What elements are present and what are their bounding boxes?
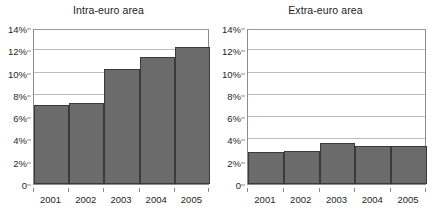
x-axis-tick-mark (247, 188, 248, 192)
plot-area-extra-euro-area (247, 29, 426, 185)
y-axis-tick-label: 4% (13, 135, 27, 146)
x-axis-tick-mark (33, 188, 34, 192)
y-axis-tick-mark (241, 185, 245, 186)
bar-series-extra-euro-area (248, 30, 425, 184)
y-axis-tick-label: 4% (227, 135, 241, 146)
y-axis-tick-label: 12% (8, 46, 27, 57)
y-axis-tick-label: 6% (13, 113, 27, 124)
y-axis-tick-mark (27, 95, 31, 96)
x-axis-tick-mark (68, 188, 69, 192)
chart-panel-intra-euro-area: Intra-euro area 02%4%6%8%10%12%14% 20012… (0, 0, 217, 215)
y-axis-intra-euro-area: 02%4%6%8%10%12%14% (0, 29, 31, 185)
y-axis-tick-label: 2% (13, 157, 27, 168)
y-axis-extra-euro-area: 02%4%6%8%10%12%14% (217, 29, 245, 185)
chart-panel-extra-euro-area: Extra-euro area 02%4%6%8%10%12%14% 20012… (217, 0, 434, 215)
y-axis-tick-mark (241, 118, 245, 119)
bar-2005 (391, 146, 427, 184)
y-axis-tick-label: 2% (227, 157, 241, 168)
chart-title-extra-euro-area: Extra-euro area (217, 4, 434, 16)
bar-2002 (284, 151, 320, 184)
y-axis-tick-label: 10% (8, 68, 27, 79)
y-axis-tick-mark (27, 140, 31, 141)
x-axis-tick-label: 2001 (254, 194, 275, 205)
bar-2003 (104, 69, 139, 184)
y-axis-tick-mark (27, 73, 31, 74)
x-axis-tick-label: 2002 (75, 194, 96, 205)
x-axis-tick-mark (283, 188, 284, 192)
bar-series-intra-euro-area (34, 30, 208, 184)
plot-area-intra-euro-area (33, 29, 209, 185)
bar-2002 (69, 103, 104, 184)
y-axis-tick-mark (27, 118, 31, 119)
bar-2004 (355, 146, 391, 184)
bar-2005 (175, 47, 210, 184)
x-axis-tick-mark (139, 188, 140, 192)
y-axis-tick-mark (241, 95, 245, 96)
x-axis-tick-mark (319, 188, 320, 192)
y-axis-tick-label: 8% (13, 90, 27, 101)
y-axis-tick-mark (27, 29, 31, 30)
x-axis-extra-euro-area: 20012002200320042005 (247, 188, 426, 208)
bar-2003 (320, 143, 356, 184)
x-axis-tick-mark (208, 188, 209, 192)
x-axis-tick-label: 2005 (398, 194, 419, 205)
x-axis-tick-label: 2003 (326, 194, 347, 205)
chart-title-intra-euro-area: Intra-euro area (0, 4, 217, 16)
y-axis-tick-label: 14% (8, 24, 27, 35)
y-axis-tick-label: 14% (222, 24, 241, 35)
y-axis-tick-mark (241, 162, 245, 163)
y-axis-tick-mark (241, 29, 245, 30)
x-axis-tick-label: 2003 (110, 194, 131, 205)
y-axis-tick-mark (241, 140, 245, 141)
x-axis-tick-label: 2002 (290, 194, 311, 205)
x-axis-tick-label: 2004 (362, 194, 383, 205)
x-axis-tick-mark (425, 188, 426, 192)
y-axis-tick-mark (27, 51, 31, 52)
y-axis-tick-label: 12% (222, 46, 241, 57)
x-axis-tick-label: 2001 (40, 194, 61, 205)
y-axis-tick-mark (241, 73, 245, 74)
x-axis-tick-mark (354, 188, 355, 192)
bar-2004 (140, 57, 175, 184)
x-axis-tick-label: 2004 (146, 194, 167, 205)
y-axis-tick-mark (241, 51, 245, 52)
x-axis-tick-mark (390, 188, 391, 192)
y-axis-tick-label: 10% (222, 68, 241, 79)
x-axis-intra-euro-area: 20012002200320042005 (33, 188, 209, 208)
y-axis-tick-label: 8% (227, 90, 241, 101)
y-axis-tick-label: 6% (227, 113, 241, 124)
bar-2001 (248, 152, 284, 184)
x-axis-tick-mark (103, 188, 104, 192)
bar-2001 (34, 105, 69, 184)
dual-bar-chart-figure: Intra-euro area 02%4%6%8%10%12%14% 20012… (0, 0, 434, 215)
x-axis-tick-mark (174, 188, 175, 192)
y-axis-tick-mark (27, 185, 31, 186)
y-axis-tick-mark (27, 162, 31, 163)
x-axis-tick-label: 2005 (181, 194, 202, 205)
